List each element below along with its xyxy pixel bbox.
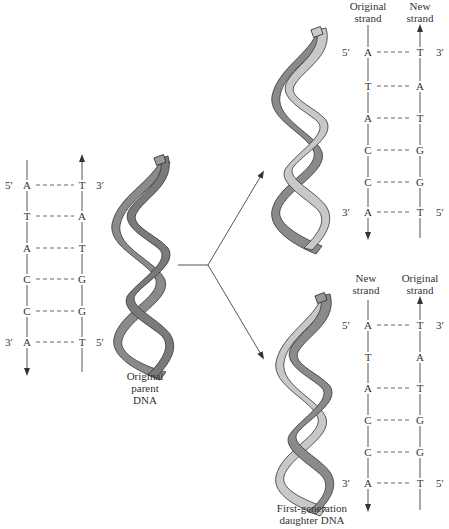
base-left: A [362, 383, 374, 394]
bottom-daughter-helix-icon [276, 293, 334, 516]
base-left: C [362, 177, 374, 188]
base-right: G [414, 447, 426, 458]
diagram-canvas [0, 0, 449, 529]
bottom-daughter-ladder-strands [368, 300, 420, 510]
base-left: A [21, 180, 33, 191]
top-daughter-ladder-strands [368, 25, 420, 238]
daughter-caption: First-generation daughter DNA [262, 502, 362, 526]
base-left: A [362, 207, 374, 218]
top-right-strand-5prime: 5′ [436, 207, 444, 218]
base-left: C [362, 415, 374, 426]
base-left: T [362, 81, 374, 92]
base-right: T [414, 383, 426, 394]
base-right: A [414, 352, 426, 363]
parent-left-strand-5prime: 5′ [5, 180, 13, 191]
bottom-right-strand-header: Original strand [395, 272, 445, 296]
base-right: G [76, 274, 88, 285]
base-left: A [362, 113, 374, 124]
top-daughter-helix-icon [272, 27, 330, 254]
header-line: New [346, 272, 386, 284]
bottom-daughter-ladder-bonds [377, 325, 412, 483]
bottom-right-strand-5prime: 5′ [436, 478, 444, 489]
top-daughter-ladder-bonds [377, 52, 412, 212]
top-left-strand-header: Original strand [343, 0, 393, 24]
base-left: A [362, 320, 374, 331]
parent-right-strand-3prime: 3′ [96, 180, 104, 191]
header-line: strand [395, 284, 445, 296]
base-left: A [21, 337, 33, 348]
header-line: Original [343, 0, 393, 12]
parent-ladder-strands [27, 158, 82, 372]
top-right-strand-3prime: 3′ [436, 47, 444, 58]
base-right: T [76, 180, 88, 191]
base-right: T [414, 113, 426, 124]
top-right-strand-header: New strand [400, 0, 440, 24]
header-line: New [400, 0, 440, 12]
caption-line: daughter DNA [262, 514, 362, 526]
base-right: G [414, 177, 426, 188]
base-left: C [362, 447, 374, 458]
base-left: T [362, 352, 374, 363]
parent-caption: Original parent DNA [110, 370, 180, 406]
base-right: T [76, 243, 88, 254]
base-right: T [414, 207, 426, 218]
base-left: C [362, 145, 374, 156]
caption-line: DNA [110, 394, 180, 406]
top-left-strand-5prime: 5′ [342, 47, 350, 58]
caption-line: parent [110, 382, 180, 394]
caption-line: First-generation [262, 502, 362, 514]
base-right: T [414, 320, 426, 331]
top-left-strand-3prime: 3′ [342, 207, 350, 218]
base-left: C [21, 306, 33, 317]
base-right: G [76, 306, 88, 317]
base-left: A [21, 243, 33, 254]
bottom-left-strand-5prime: 5′ [342, 320, 350, 331]
header-line: strand [343, 12, 393, 24]
base-left: A [362, 478, 374, 489]
base-right: A [414, 81, 426, 92]
base-left: A [362, 47, 374, 58]
base-right: T [76, 337, 88, 348]
parent-right-strand-5prime: 5′ [96, 337, 104, 348]
parent-ladder-bonds [36, 185, 74, 342]
parent-left-strand-3prime: 3′ [5, 337, 13, 348]
caption-line: Original [110, 370, 180, 382]
replication-arrows [178, 174, 262, 356]
header-line: Original [395, 272, 445, 284]
base-left: C [21, 274, 33, 285]
base-right: A [76, 211, 88, 222]
header-line: strand [400, 12, 440, 24]
bottom-left-strand-3prime: 3′ [342, 478, 350, 489]
base-right: G [414, 415, 426, 426]
base-left: T [21, 211, 33, 222]
parent-helix-icon [112, 155, 174, 380]
base-right: T [414, 478, 426, 489]
bottom-right-strand-3prime: 3′ [436, 320, 444, 331]
base-right: T [414, 47, 426, 58]
header-line: strand [346, 284, 386, 296]
base-right: G [414, 145, 426, 156]
bottom-left-strand-header: New strand [346, 272, 386, 296]
